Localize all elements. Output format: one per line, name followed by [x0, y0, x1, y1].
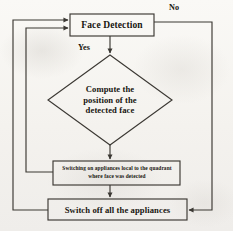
edge-switch-off-feedback [13, 20, 68, 210]
node-face-detection [70, 14, 154, 36]
node-switch-on [53, 161, 180, 185]
node-compute-position [48, 55, 172, 145]
flowchart-graphics [0, 0, 233, 231]
node-switch-off [48, 199, 187, 220]
edge-switch-on-feedback [26, 28, 68, 172]
edge-no-branch [154, 22, 212, 210]
flowchart-canvas: Face Detection Compute the position of t… [0, 0, 233, 231]
